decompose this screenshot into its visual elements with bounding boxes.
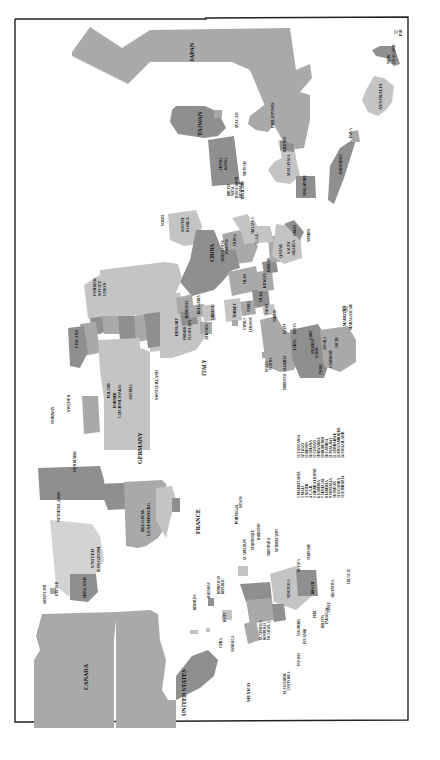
label-panama: PANAMA bbox=[297, 652, 301, 666]
label-uae: U.A.E. bbox=[254, 233, 259, 244]
label-barbados: BARBADOS bbox=[257, 523, 261, 540]
label-jordan: JORDAN bbox=[273, 309, 277, 322]
label-uruguay: URUGUAY bbox=[347, 568, 351, 584]
label-fsu-3: UNION bbox=[102, 283, 107, 296]
label-greece: GREECE bbox=[211, 305, 215, 320]
label-costa-rica: COSTA RICA bbox=[287, 671, 291, 690]
label-north-korea: NORTH bbox=[161, 214, 165, 226]
label-ecuador: ECUADOR bbox=[303, 628, 307, 644]
label-mauritius: MAURITIUS bbox=[343, 306, 347, 326]
label-dominican-2: REPUBLIC bbox=[221, 578, 225, 594]
label-macao: MACAO bbox=[234, 112, 239, 128]
legend-item: 24 SWAZILAND bbox=[341, 431, 345, 458]
label-iran: IRAN bbox=[242, 274, 247, 284]
label-new-zealand-2: ZEALAND bbox=[391, 44, 396, 64]
label-australia: AUSTRALIA bbox=[378, 83, 383, 110]
label-belgium-2: LUXEMBOURG bbox=[146, 502, 151, 536]
label-hungary: HUNGARY bbox=[175, 318, 179, 336]
label-switzerland: SWITZERLAND bbox=[154, 370, 159, 400]
label-saudi-2: ARABIA bbox=[291, 240, 296, 256]
label-canada: CANADA bbox=[83, 663, 89, 690]
label-brazil: BRAZIL bbox=[311, 580, 315, 594]
label-madagascar: MADAGASCAR bbox=[349, 304, 353, 330]
label-egypt: EGYPT bbox=[283, 324, 287, 334]
label-iraq: IRAQ bbox=[258, 292, 263, 302]
label-bahamas: BAHAMAS bbox=[207, 582, 211, 598]
label-gabon: GABON bbox=[315, 346, 319, 358]
label-italy: ITALY bbox=[201, 359, 207, 376]
label-jamaica: JAMAICA bbox=[231, 635, 235, 652]
label-israel: ISRAEL bbox=[265, 303, 269, 314]
label-haiti: HAITI bbox=[223, 612, 227, 622]
label-turkey: TURKEY bbox=[233, 303, 237, 318]
label-norway: NORWAY bbox=[50, 406, 55, 424]
label-cyprus: CYPRUS bbox=[243, 318, 247, 330]
label-vietnam: VIETNAM bbox=[243, 161, 247, 176]
label-belgium-1: BELGIUM- bbox=[140, 508, 145, 532]
label-austria: AUSTRIA bbox=[129, 384, 133, 400]
label-guyana: GUYANA bbox=[297, 558, 301, 572]
label-kuwait: KUWAIT bbox=[263, 273, 267, 288]
label-trinidad: TRINIDAD & bbox=[267, 537, 271, 556]
label-uk-1: UNITED bbox=[90, 548, 95, 568]
label-qatar: QATAR bbox=[278, 244, 283, 258]
label-cuba: CUBA bbox=[219, 638, 223, 648]
label-uk-2: KINGDOM bbox=[96, 546, 101, 572]
label-antilles: NETHERLANDS bbox=[275, 529, 279, 552]
label-fiji: FIJI bbox=[399, 29, 403, 36]
label-germany: GERMANY bbox=[137, 432, 143, 464]
label-suriname: SURINAME bbox=[307, 544, 311, 560]
label-yugoslavia-2: YUGOSLAVIA bbox=[188, 319, 192, 340]
label-sri-lanka: SRI LANKA bbox=[251, 217, 255, 234]
label-poland: POLAND bbox=[107, 383, 111, 398]
label-kenya: KENYA bbox=[293, 323, 297, 334]
label-sweden: SWEDEN bbox=[66, 395, 71, 412]
label-ivory-coast: IVORY bbox=[319, 363, 323, 374]
label-romania: ROMANIA bbox=[185, 300, 189, 318]
label-philippines: PHILIPPINES bbox=[270, 102, 275, 128]
label-yugoslavia-1: FORMER bbox=[183, 326, 187, 340]
label-colombia: COLOMBIA bbox=[297, 618, 301, 636]
label-iceland: ICELAND bbox=[55, 581, 59, 596]
label-yemen: YEMEN bbox=[307, 229, 311, 243]
label-png: PAPUA bbox=[349, 127, 353, 138]
label-martinique: MARTINIQUE bbox=[251, 530, 255, 550]
label-malaysia: MALAYSIA bbox=[286, 154, 291, 176]
label-netherlands: NETHERLANDS bbox=[56, 491, 61, 522]
label-czech-2: CZECHOSLOVAKIA bbox=[118, 384, 122, 418]
label-south-korea-2: KOREA bbox=[185, 217, 190, 232]
label-usa: UNITED STATES bbox=[181, 668, 187, 716]
label-ireland: IRELAND bbox=[82, 576, 87, 598]
label-syria: SYRIA bbox=[247, 301, 251, 312]
label-cameroon: CAMEROON bbox=[329, 349, 333, 368]
label-indonesia: INDONESIA bbox=[339, 154, 343, 174]
label-venezuela: VENEZUELA bbox=[287, 578, 291, 598]
label-czech-1: FORMER bbox=[113, 392, 117, 408]
label-angola: ANGOLA bbox=[323, 336, 327, 350]
label-portugal: PORTUGAL bbox=[235, 504, 239, 524]
label-zaire: ZAIRE bbox=[309, 330, 313, 340]
label-bulgaria: BULGARIA bbox=[197, 295, 201, 314]
label-brunei: BRUNEI bbox=[282, 136, 287, 152]
label-china: CHINA bbox=[209, 244, 215, 262]
label-pakistan: PAKISTAN bbox=[225, 238, 229, 254]
label-tunisia: TUNISIA bbox=[269, 357, 273, 370]
label-france: FRANCE bbox=[195, 509, 201, 534]
label-lebanon: LEBANON bbox=[249, 316, 253, 332]
label-guadeloupe: GUADELOUPE bbox=[243, 539, 247, 560]
legend-item: 12 ETHIOPIA bbox=[341, 475, 345, 498]
label-nicaragua: NICARAGUA bbox=[267, 621, 271, 641]
label-india: INDIA bbox=[232, 234, 237, 246]
label-argentina: ARGENTINA bbox=[331, 579, 335, 598]
label-morocco: MOROCCO bbox=[283, 373, 287, 390]
label-oman: OMAN bbox=[293, 224, 297, 236]
label-myanmar: MYANMAR bbox=[239, 181, 243, 198]
label-hong-kong-2: KONG bbox=[223, 158, 228, 170]
label-mexico: MEXICO bbox=[246, 683, 251, 702]
label-libya: LIBYA bbox=[293, 339, 297, 350]
label-peru: PERU bbox=[313, 609, 317, 618]
label-chile: CHILE bbox=[327, 602, 331, 612]
label-singapore: SINGAPORE bbox=[303, 175, 307, 196]
africa-legend: 1 MAURITANIA 2 MALI 3 NIGER 4 C.A.R. 5 S… bbox=[297, 427, 345, 498]
label-taiwan: TAIWAN bbox=[197, 111, 203, 136]
